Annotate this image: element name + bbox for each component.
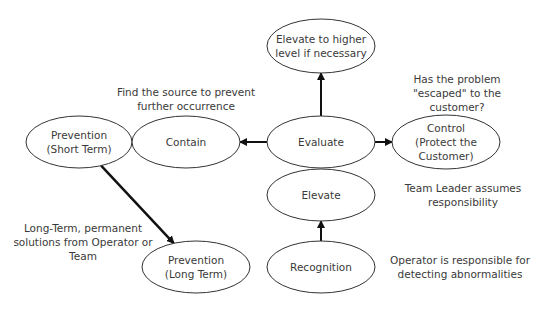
node-label: Recognition [290, 261, 352, 273]
node-evaluate: Evaluate [267, 116, 375, 168]
notes-layer: Find the source to preventfurther occurr… [13, 73, 530, 280]
note-line: Has the problem [413, 73, 500, 85]
note-line: Team Leader assumes [404, 182, 522, 194]
node-label: Prevention [51, 129, 107, 141]
node-elevate: Elevate [267, 169, 375, 221]
note-line: Long-Term, permanent [24, 222, 142, 234]
node-label: Control [427, 122, 465, 134]
node-shape [142, 241, 250, 293]
note-line: Find the source to prevent [117, 86, 255, 98]
node-shape [26, 116, 132, 168]
node-label: (Short Term) [46, 143, 111, 155]
note-line: Team [68, 250, 97, 262]
node-contain: Contain [132, 116, 240, 168]
nodes-layer: Elevate to higherlevel if necessaryPreve… [26, 19, 500, 293]
note-contain: Find the source to preventfurther occurr… [117, 86, 255, 112]
node-label: Elevate [301, 189, 340, 201]
note-line: solutions from Operator or [13, 236, 153, 248]
node-recognition: Recognition [267, 241, 375, 293]
node-label: Contain [166, 136, 207, 148]
node-shape [267, 19, 375, 73]
note-long-term: Long-Term, permanentsolutions from Opera… [13, 222, 153, 262]
node-label: (Protect the [415, 136, 477, 148]
note-line: customer? [429, 101, 484, 113]
node-prevention-short: Prevention(Short Term) [26, 116, 132, 168]
note-line: Operator is responsible for [390, 254, 531, 266]
note-line: "escaped" to the [413, 87, 501, 99]
node-prevention-long: Prevention(Long Term) [142, 241, 250, 293]
node-label: Prevention [168, 254, 224, 266]
node-control: Control(Protect theCustomer) [392, 115, 500, 169]
node-label: Evaluate [298, 136, 344, 148]
node-elevate-higher: Elevate to higherlevel if necessary [267, 19, 375, 73]
note-line: responsibility [428, 196, 498, 208]
note-line: further occurrence [137, 100, 235, 112]
node-label: level if necessary [275, 47, 367, 59]
note-operator: Operator is responsible fordetecting abn… [390, 254, 531, 280]
node-label: Elevate to higher [276, 33, 367, 45]
note-line: detecting abnormalities [398, 268, 523, 280]
note-control: Has the problem"escaped" to thecustomer? [413, 73, 501, 113]
node-label: (Long Term) [165, 268, 227, 280]
note-team-leader: Team Leader assumesresponsibility [404, 182, 522, 208]
node-label: Customer) [418, 150, 473, 162]
diagram-canvas: Elevate to higherlevel if necessaryPreve… [0, 0, 536, 310]
